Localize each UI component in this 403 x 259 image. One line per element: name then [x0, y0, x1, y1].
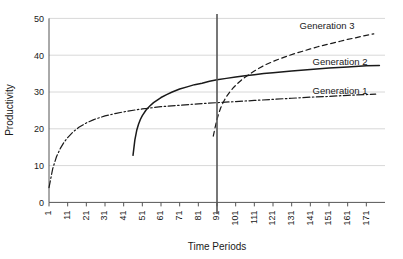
y-tick-label: 10	[34, 161, 44, 171]
x-tick-label: 51	[137, 210, 147, 220]
x-tick-label: 111	[249, 210, 259, 224]
y-tick-label: 0	[39, 198, 44, 208]
x-tick-group: 1112131415161718191101111121131141151161…	[43, 202, 370, 225]
x-tick-label: 161	[342, 210, 352, 225]
x-tick-label: 11	[62, 210, 72, 219]
x-tick-label: 101	[230, 210, 240, 225]
legend: Generation 3 Generation 2 Generation 1	[300, 20, 368, 96]
y-tick-label: 50	[34, 14, 44, 24]
x-tick-label: 121	[267, 210, 277, 225]
legend-label-generation-2: Generation 2	[313, 56, 368, 67]
x-tick-label: 21	[81, 210, 91, 220]
x-tick-label: 31	[99, 210, 109, 220]
x-tick-label: 61	[155, 210, 165, 220]
x-tick-label: 71	[174, 210, 184, 220]
x-axis-title: Time Periods	[188, 241, 247, 252]
legend-label-generation-1: Generation 1	[313, 85, 368, 96]
x-tick-label: 171	[361, 210, 371, 225]
x-tick-label: 151	[323, 210, 333, 225]
series-line-generation-2	[133, 66, 379, 156]
y-tick-label: 20	[34, 124, 44, 134]
x-tick-label: 81	[193, 210, 203, 220]
x-tick-label: 41	[118, 210, 128, 220]
y-tick-label: 30	[34, 87, 44, 97]
x-tick-label: 141	[305, 210, 315, 225]
legend-label-generation-3: Generation 3	[300, 20, 355, 31]
x-tick-label: 131	[286, 210, 296, 225]
y-tick-label: 40	[34, 51, 44, 61]
y-tick-labels: 50 40 30 20 10 0	[34, 14, 44, 208]
series-line-generation-1	[49, 94, 376, 187]
chart-canvas: 50 40 30 20 10 0 11121314151617181911011…	[0, 0, 403, 259]
productivity-generations-chart: 50 40 30 20 10 0 11121314151617181911011…	[0, 0, 403, 259]
x-tick-label: 1	[43, 210, 53, 215]
y-axis-title: Productivity	[4, 84, 15, 136]
